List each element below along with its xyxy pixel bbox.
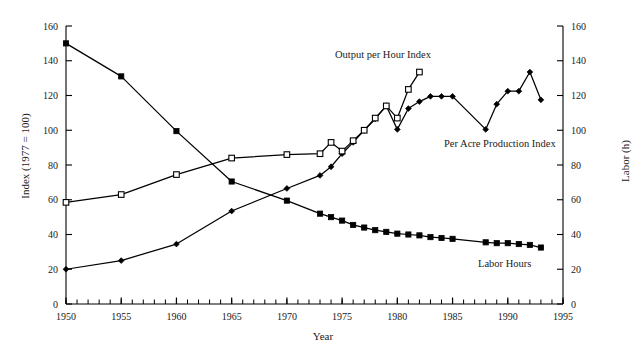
y-axis-left-title: Index (1977 = 100): [19, 76, 31, 236]
svg-text:160: 160: [571, 21, 586, 32]
svg-text:80: 80: [48, 160, 58, 171]
svg-text:60: 60: [571, 194, 581, 205]
data-point: [351, 222, 356, 227]
data-point: [428, 93, 434, 99]
series-per-acre-production-index: [63, 69, 544, 272]
data-point: [63, 266, 69, 272]
data-point: [439, 93, 445, 99]
svg-text:100: 100: [43, 125, 58, 136]
data-point: [174, 172, 180, 178]
data-point: [284, 186, 290, 192]
data-point: [395, 231, 400, 236]
data-point: [450, 236, 455, 241]
data-point: [119, 74, 124, 79]
svg-text:20: 20: [48, 264, 58, 275]
data-point: [538, 97, 544, 103]
svg-text:0: 0: [571, 299, 576, 310]
data-point: [439, 235, 444, 240]
data-point: [516, 88, 522, 94]
svg-text:1950: 1950: [56, 311, 76, 322]
svg-text:140: 140: [43, 55, 58, 66]
data-point: [361, 127, 367, 133]
svg-text:40: 40: [48, 229, 58, 240]
data-point: [362, 225, 367, 230]
data-point: [340, 218, 345, 223]
data-point: [538, 245, 543, 250]
svg-text:1980: 1980: [387, 311, 407, 322]
data-point: [505, 241, 510, 246]
data-point: [483, 240, 488, 245]
data-point: [317, 151, 323, 157]
svg-text:100: 100: [571, 125, 586, 136]
data-point: [229, 179, 234, 184]
data-point: [63, 41, 68, 46]
svg-text:60: 60: [48, 194, 58, 205]
data-point: [350, 138, 356, 144]
data-point: [417, 99, 423, 105]
series-label-output-per-hour: Output per Hour Index: [335, 49, 431, 60]
svg-text:1970: 1970: [277, 311, 297, 322]
data-point: [417, 233, 422, 238]
y-axis-left-ticks: [66, 26, 72, 304]
y-axis-left-tick-labels: 020406080100120140160: [43, 21, 58, 310]
data-point: [394, 126, 400, 132]
svg-text:1955: 1955: [111, 311, 131, 322]
data-point: [339, 148, 345, 154]
data-point: [372, 115, 378, 121]
data-point: [174, 241, 180, 247]
svg-text:80: 80: [571, 160, 581, 171]
data-point: [417, 69, 423, 75]
data-point: [328, 215, 333, 220]
data-point: [405, 106, 411, 112]
chart-plot-area: 1950195519601965197019751980198519901995…: [0, 0, 643, 355]
svg-text:160: 160: [43, 21, 58, 32]
svg-text:120: 120: [571, 90, 586, 101]
svg-text:1975: 1975: [332, 311, 352, 322]
data-point: [373, 228, 378, 233]
data-point: [317, 211, 322, 216]
data-point: [328, 140, 334, 146]
y-axis-right-title: Labor (h): [619, 101, 631, 221]
y-axis-right-ticks: [557, 26, 563, 304]
data-point: [383, 103, 389, 109]
svg-text:40: 40: [571, 229, 581, 240]
data-point: [428, 235, 433, 240]
data-point: [527, 69, 533, 75]
data-point: [118, 192, 124, 198]
chart-container: 1950195519601965197019751980198519901995…: [0, 0, 643, 355]
data-point: [516, 241, 521, 246]
series-label-per-acre: Per Acre Production Index: [444, 138, 556, 149]
data-point: [284, 152, 290, 158]
data-point: [63, 200, 69, 206]
data-point: [527, 242, 532, 247]
x-axis-major-ticks: [66, 298, 563, 305]
data-point: [174, 129, 179, 134]
svg-text:1985: 1985: [443, 311, 463, 322]
data-point: [406, 87, 412, 93]
data-point: [494, 241, 499, 246]
svg-text:20: 20: [571, 264, 581, 275]
data-series-layer: [63, 41, 544, 272]
x-axis-minor-ticks: [66, 300, 563, 305]
data-point: [229, 208, 235, 214]
svg-text:140: 140: [571, 55, 586, 66]
data-point: [384, 229, 389, 234]
data-point: [406, 232, 411, 237]
series-label-labor-hours: Labor Hours: [478, 258, 531, 269]
data-point: [284, 198, 289, 203]
svg-text:1995: 1995: [553, 311, 573, 322]
data-point: [229, 155, 235, 161]
svg-text:1990: 1990: [498, 311, 518, 322]
y-axis-right-tick-labels: 020406080100120140160: [571, 21, 586, 310]
svg-text:0: 0: [53, 299, 58, 310]
x-axis-tick-labels: 1950195519601965197019751980198519901995: [56, 311, 573, 322]
svg-text:1965: 1965: [222, 311, 242, 322]
svg-text:120: 120: [43, 90, 58, 101]
data-point: [118, 258, 124, 264]
data-point: [395, 115, 401, 121]
x-axis-title: Year: [283, 330, 363, 342]
svg-text:1960: 1960: [166, 311, 186, 322]
